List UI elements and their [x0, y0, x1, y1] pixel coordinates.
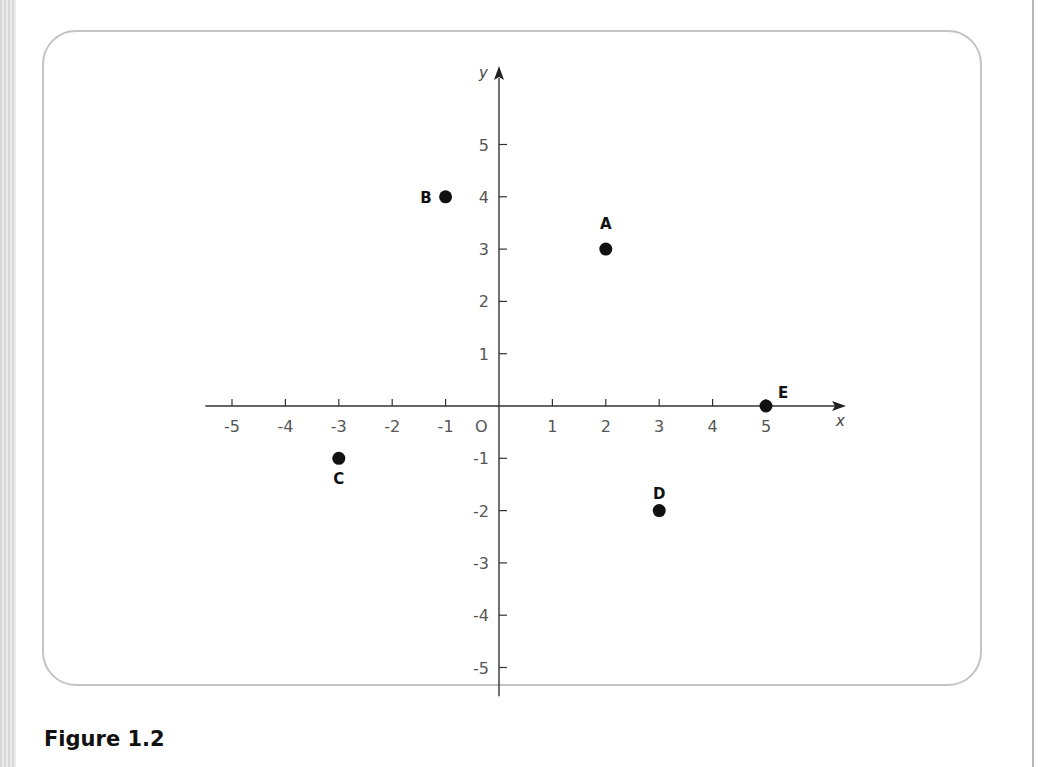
- point-c: [332, 452, 345, 465]
- y-tick-label: -5: [473, 659, 489, 678]
- y-tick-label: 2: [479, 292, 489, 311]
- origin-label: O: [475, 417, 488, 436]
- x-tick-label: -3: [331, 417, 347, 436]
- y-axis-arrow-icon: [494, 66, 504, 80]
- point-label: A: [600, 215, 612, 233]
- y-tick-label: -1: [473, 449, 489, 468]
- x-tick-label: 5: [761, 417, 771, 436]
- x-tick-label: 1: [547, 417, 557, 436]
- y-tick-label: -4: [473, 606, 489, 625]
- x-tick-label: 2: [601, 417, 611, 436]
- point-b: [439, 190, 452, 203]
- y-tick-label: 5: [479, 136, 489, 155]
- x-tick-label: -4: [277, 417, 293, 436]
- y-tick-label: -3: [473, 554, 489, 573]
- point-label: D: [653, 485, 665, 503]
- axes: xyO: [205, 64, 846, 696]
- coordinate-plane: xyO -5-4-3-2-11234554321-1-2-3-4-5 ABCDE: [0, 0, 1054, 767]
- point-label: E: [778, 384, 788, 402]
- x-axis-label: x: [835, 412, 845, 430]
- x-tick-label: 4: [708, 417, 718, 436]
- data-points: ABCDE: [332, 189, 788, 517]
- figure-caption: Figure 1.2: [44, 727, 165, 751]
- x-tick-label: -2: [384, 417, 400, 436]
- y-tick-label: -2: [473, 502, 489, 521]
- y-tick-label: 1: [479, 345, 489, 364]
- y-tick-label: 4: [479, 188, 489, 207]
- y-tick-label: 3: [479, 240, 489, 259]
- x-tick-label: -5: [224, 417, 240, 436]
- point-d: [653, 504, 666, 517]
- x-tick-label: 3: [654, 417, 664, 436]
- point-label: B: [420, 189, 431, 207]
- point-label: C: [333, 470, 344, 488]
- y-axis-label: y: [478, 64, 489, 82]
- x-tick-label: -1: [438, 417, 454, 436]
- point-a: [599, 243, 612, 256]
- point-e: [760, 400, 773, 413]
